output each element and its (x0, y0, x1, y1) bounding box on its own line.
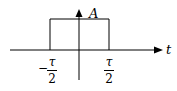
left-edge-numerator: τ (49, 56, 56, 68)
time-axis-label: t (166, 43, 171, 56)
right-edge-denominator: 2 (105, 73, 113, 85)
amplitude-label: A (89, 7, 98, 20)
time-axis-arrow-icon (154, 47, 163, 54)
left-edge-fraction-bar (47, 70, 57, 71)
left-edge-fraction: τ 2 (47, 56, 57, 85)
amplitude-axis-arrow-icon (76, 9, 83, 17)
left-edge-denominator: 2 (48, 73, 56, 85)
right-edge-numerator: τ (106, 56, 113, 68)
right-edge-fraction: τ 2 (104, 56, 114, 85)
right-edge-fraction-bar (104, 70, 114, 71)
